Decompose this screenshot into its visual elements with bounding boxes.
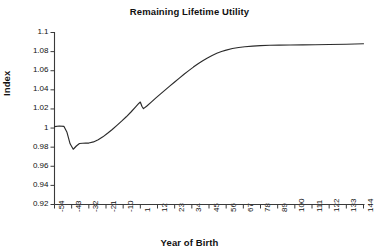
data-series [55,44,364,149]
chart-container: Remaining Lifetime Utility Index Year of… [0,0,379,251]
plot-area [0,0,379,251]
series-line [55,44,364,149]
